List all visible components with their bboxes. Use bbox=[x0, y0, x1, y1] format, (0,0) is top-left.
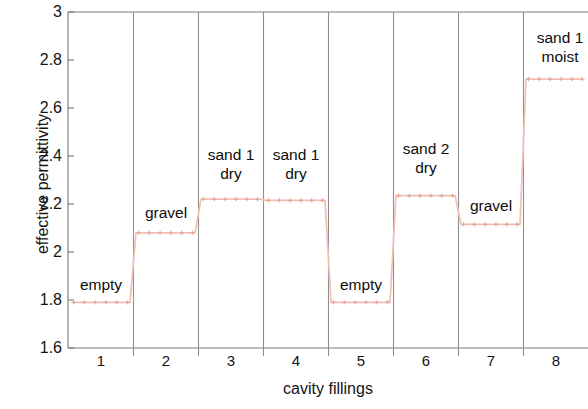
segment-annotation-line1: sand 2 bbox=[403, 139, 450, 158]
data-point-marker bbox=[494, 222, 498, 226]
segment-annotation-1: empty bbox=[79, 275, 123, 294]
data-point-marker bbox=[266, 198, 270, 202]
data-point-marker bbox=[429, 194, 433, 198]
data-point-marker bbox=[537, 77, 541, 81]
segment-annotation-7: gravel bbox=[469, 196, 513, 215]
data-point-marker bbox=[147, 231, 151, 235]
data-point-marker bbox=[331, 300, 335, 304]
segment-annotation-5: empty bbox=[339, 275, 383, 294]
data-point-marker bbox=[125, 300, 129, 304]
data-point-marker bbox=[342, 300, 346, 304]
segment-annotation-3: sand 1 dry bbox=[207, 145, 256, 183]
segment-annotation-4: sand 1 dry bbox=[272, 145, 321, 183]
segment-annotation-line1: gravel bbox=[470, 196, 512, 215]
data-point-marker bbox=[255, 197, 259, 201]
data-point-marker bbox=[234, 197, 238, 201]
segment-annotation-line1: sand 1 bbox=[537, 28, 584, 47]
segment-annotation-line1: empty bbox=[340, 275, 382, 294]
data-point-marker bbox=[364, 300, 368, 304]
data-point-marker bbox=[461, 222, 465, 226]
data-point-marker bbox=[310, 198, 314, 202]
segment-annotation-line2: dry bbox=[273, 164, 320, 183]
data-point-marker bbox=[353, 300, 357, 304]
data-point-marker bbox=[201, 197, 205, 201]
chart-figure: effective permittivity 3 2.8 2.6 2.4 2.2… bbox=[0, 0, 588, 409]
data-point-marker bbox=[418, 194, 422, 198]
data-point-marker bbox=[320, 198, 324, 202]
data-point-marker bbox=[190, 231, 194, 235]
data-point-marker bbox=[223, 197, 227, 201]
segment-annotation-line2: moist bbox=[537, 47, 584, 66]
data-point-marker bbox=[71, 300, 75, 304]
x-axis-ticks bbox=[134, 348, 524, 356]
data-point-marker bbox=[505, 222, 509, 226]
data-point-marker bbox=[526, 77, 530, 81]
data-point-marker bbox=[180, 231, 184, 235]
data-point-marker bbox=[548, 77, 552, 81]
data-point-marker bbox=[158, 231, 162, 235]
segment-annotation-line2: dry bbox=[208, 164, 255, 183]
data-point-marker bbox=[104, 300, 108, 304]
data-point-marker bbox=[288, 198, 292, 202]
data-point-marker bbox=[570, 77, 574, 81]
segment-annotation-8: sand 1 moist bbox=[536, 28, 585, 66]
data-point-marker bbox=[472, 222, 476, 226]
data-point-marker bbox=[82, 300, 86, 304]
data-point-marker bbox=[115, 300, 119, 304]
segment-annotation-line1: gravel bbox=[145, 203, 187, 222]
segment-annotation-6: sand 2 dry bbox=[402, 139, 451, 177]
data-point-marker bbox=[212, 197, 216, 201]
data-point-marker bbox=[407, 194, 411, 198]
data-point-marker bbox=[375, 300, 379, 304]
data-point-marker bbox=[396, 194, 400, 198]
segment-annotation-line1: sand 1 bbox=[208, 145, 255, 164]
data-point-marker bbox=[580, 77, 584, 81]
data-point-marker bbox=[559, 77, 563, 81]
segment-annotation-line1: empty bbox=[80, 275, 122, 294]
data-point-marker bbox=[450, 194, 454, 198]
data-point-marker bbox=[93, 300, 97, 304]
data-point-marker bbox=[440, 194, 444, 198]
segment-annotation-2: gravel bbox=[144, 203, 188, 222]
segment-dividers bbox=[134, 12, 524, 348]
segment-annotation-line2: dry bbox=[403, 158, 450, 177]
segment-annotation-line1: sand 1 bbox=[273, 145, 320, 164]
y-axis-ticks bbox=[68, 12, 74, 348]
data-point-marker bbox=[515, 222, 519, 226]
data-point-marker bbox=[299, 198, 303, 202]
data-point-marker bbox=[277, 198, 281, 202]
data-point-marker bbox=[169, 231, 173, 235]
data-point-marker bbox=[245, 197, 249, 201]
data-point-marker bbox=[136, 231, 140, 235]
data-point-marker bbox=[385, 300, 389, 304]
data-point-marker bbox=[483, 222, 487, 226]
